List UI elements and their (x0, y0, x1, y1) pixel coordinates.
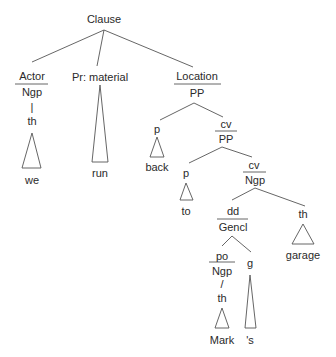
node-g: g (247, 257, 253, 269)
word-garage: garage (286, 249, 320, 261)
tree-lines (0, 0, 336, 357)
node-po-head: th (217, 292, 226, 304)
word-run: run (92, 167, 108, 179)
node-p-back: p (154, 123, 160, 135)
node-th-garage: th (298, 208, 307, 220)
word-we: we (25, 174, 39, 186)
connector-slash: / (220, 278, 223, 290)
node-location-function: Location (176, 70, 218, 82)
node-process: Pr: material (72, 71, 128, 83)
word-mark: Mark (210, 334, 234, 346)
node-actor-class: Ngp (22, 86, 42, 98)
node-dd-function: dd (227, 205, 239, 217)
node-actor-function: Actor (19, 70, 45, 82)
word-to: to (181, 205, 190, 217)
node-po-function: po (216, 250, 228, 262)
node-location-class: PP (190, 87, 205, 99)
node-cv-pp-class: PP (219, 133, 234, 145)
node-clause: Clause (87, 13, 121, 25)
node-dd-class: Gencl (219, 221, 248, 233)
node-cv-pp-function: cv (221, 118, 232, 130)
word-back: back (145, 161, 168, 173)
word-possessive-s: 's (246, 334, 254, 346)
node-actor-head: th (27, 115, 36, 127)
node-po-class: Ngp (212, 265, 232, 277)
node-cv-ngp-class: Ngp (245, 174, 265, 186)
node-cv-ngp-function: cv (249, 159, 260, 171)
connector-bar: | (31, 101, 34, 113)
node-p-to: p (183, 167, 189, 179)
